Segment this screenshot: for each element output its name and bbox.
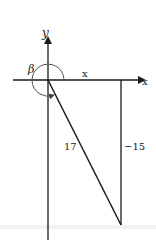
hypotenuse-label: 17 <box>64 141 77 152</box>
y-axis-label: y <box>41 26 49 40</box>
x-axis-label: x <box>142 76 148 87</box>
vertical-side-label: −15 <box>124 141 145 152</box>
hypotenuse <box>48 80 121 225</box>
horizontal-side-label: x <box>82 68 88 79</box>
angle-arc-arrow-icon <box>40 94 53 96</box>
scan-band <box>0 225 156 229</box>
angle-beta-label: β <box>27 63 34 76</box>
diagram-canvas: y x β x 17 −15 <box>0 0 156 240</box>
